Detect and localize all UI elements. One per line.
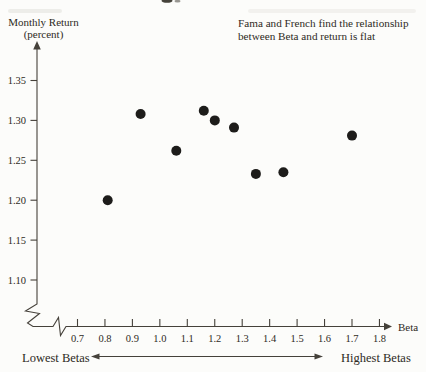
y-tick-label: 1.30 — [8, 115, 26, 126]
x-tick-label: 0.7 — [71, 333, 84, 344]
y-tick-label: 1.35 — [8, 75, 26, 86]
lowest-betas-label: Lowest Betas — [22, 351, 90, 365]
chart-page: Monthly Return (percent) Fama and French… — [0, 0, 426, 372]
page-edge-artifact — [8, 0, 416, 13]
annotation-line-1: Fama and French find the relationship — [238, 17, 409, 29]
x-tick-label: 1.3 — [236, 333, 249, 344]
y-tick-label: 1.15 — [8, 235, 26, 246]
x-axis-ticks: 0.70.80.91.01.11.21.31.41.51.61.71.8 — [71, 319, 386, 344]
x-tick-label: 1.7 — [345, 333, 358, 344]
x-axis-label: Beta — [398, 321, 418, 333]
annotation-line-2: between Beta and return is flat — [238, 30, 376, 42]
beta-range-arrow-icon — [91, 353, 323, 359]
data-point — [171, 146, 181, 156]
data-points — [103, 106, 357, 205]
x-tick-label: 1.2 — [208, 333, 221, 344]
x-tick-label: 1.1 — [181, 333, 194, 344]
y-axis-ticks: 1.351.301.251.201.151.10 — [8, 75, 37, 286]
data-point — [251, 169, 261, 179]
y-tick-label: 1.20 — [8, 195, 26, 206]
data-point — [347, 131, 357, 141]
data-point — [199, 106, 209, 116]
data-point — [229, 123, 239, 133]
y-tick-label: 1.10 — [8, 275, 26, 286]
beta-vs-return-scatter-chart: Monthly Return (percent) Fama and French… — [0, 0, 426, 372]
highest-betas-label: Highest Betas — [341, 351, 411, 365]
x-tick-label: 0.9 — [126, 333, 139, 344]
x-tick-label: 1.0 — [153, 333, 166, 344]
y-axis-title: Monthly Return — [8, 16, 79, 28]
data-point — [136, 109, 146, 119]
y-tick-label: 1.25 — [8, 155, 26, 166]
x-tick-label: 1.8 — [373, 333, 386, 344]
data-point — [103, 195, 113, 205]
data-point — [278, 167, 288, 177]
axis-lines-with-breaks — [26, 47, 386, 336]
y-axis-unit: (percent) — [24, 28, 64, 41]
x-tick-label: 0.8 — [98, 333, 111, 344]
x-tick-label: 1.6 — [318, 333, 331, 344]
x-axis-arrowhead-icon — [384, 323, 392, 330]
y-axis-arrowhead-icon — [33, 41, 41, 50]
data-point — [210, 115, 220, 125]
x-tick-label: 1.4 — [263, 333, 277, 344]
x-tick-label: 1.5 — [291, 333, 304, 344]
